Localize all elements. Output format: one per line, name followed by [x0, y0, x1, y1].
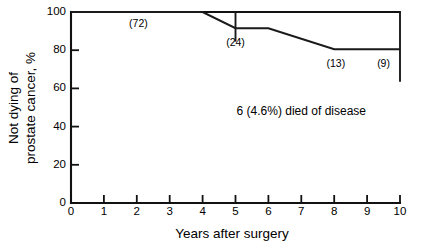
point-labels-group: (72)(24)(13)(9)	[129, 17, 390, 69]
y-tick-label-0: 0	[60, 196, 66, 208]
x-tick-label-5: 5	[232, 205, 238, 217]
at-risk-count-label-1: (24)	[226, 36, 245, 48]
y-tick-label-40: 40	[53, 120, 66, 132]
chart-container: 0 20 40 60 80 100 0 1 2 3 4 5 6	[0, 0, 421, 251]
x-tick-label-8: 8	[331, 205, 337, 217]
x-tick-label-3: 3	[166, 205, 172, 217]
y-ticks-group: 0 20 40 60 80 100	[47, 5, 79, 208]
x-tick-label-7: 7	[298, 205, 304, 217]
x-tick-label-2: 2	[134, 205, 140, 217]
y-axis-title-line2: prostate cancer, %	[23, 52, 38, 164]
x-tick-label-9: 9	[364, 205, 370, 217]
x-tick-label-0: 0	[68, 205, 74, 217]
died-of-disease-annotation: 6 (4.6%) died of disease	[237, 104, 367, 118]
y-axis-title-line1: Not dying of	[6, 72, 21, 144]
x-tick-label-4: 4	[199, 205, 206, 217]
at-risk-count-label-0: (72)	[129, 17, 148, 29]
x-tick-label-6: 6	[265, 205, 271, 217]
x-axis-title: Years after surgery	[175, 226, 289, 241]
y-tick-label-20: 20	[53, 158, 66, 170]
y-tick-label-100: 100	[47, 5, 66, 17]
error-bars-group	[236, 12, 401, 82]
y-tick-label-80: 80	[53, 43, 66, 55]
at-risk-count-label-2: (13)	[327, 57, 346, 69]
x-tick-label-10: 10	[394, 205, 407, 217]
x-ticks-group: 0 1 2 3 4 5 6 7 8 9 10	[68, 195, 407, 217]
x-tick-label-1: 1	[101, 205, 107, 217]
y-tick-label-60: 60	[53, 81, 66, 93]
at-risk-count-label-3: (9)	[377, 57, 390, 69]
survival-curve-chart: 0 20 40 60 80 100 0 1 2 3 4 5 6	[0, 0, 421, 251]
